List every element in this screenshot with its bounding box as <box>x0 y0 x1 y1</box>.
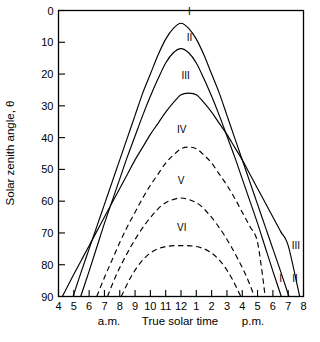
x-tick-label: 8 <box>117 300 123 312</box>
x-tick-label: 7 <box>285 300 291 312</box>
curve-label-III: III <box>181 70 189 81</box>
y-tick-label: 20 <box>41 68 53 80</box>
x-tick-label: 6 <box>86 300 92 312</box>
x-tick-label: 1 <box>193 300 199 312</box>
x-tick-label: 12 <box>175 300 187 312</box>
pm-label: p.m. <box>242 315 264 327</box>
y-tick-label: 40 <box>41 132 53 144</box>
x-tick-label: 11 <box>160 300 171 312</box>
x-tick-label: 4 <box>55 300 61 312</box>
curve-label-V: V <box>178 175 185 186</box>
y-tick-label: 60 <box>41 195 53 207</box>
x-tick-label: 2 <box>209 300 215 312</box>
x-tick-label: 8 <box>300 300 306 312</box>
y-tick-label: 70 <box>41 227 53 239</box>
curve-label-I: I <box>279 273 282 284</box>
y-axis-title: Solar zenith angle, θ <box>4 101 16 206</box>
y-tick-label: 80 <box>41 259 53 271</box>
am-label: a.m. <box>98 315 120 327</box>
curve-label-II: II <box>187 32 193 43</box>
x-tick-label: 9 <box>132 300 138 312</box>
x-tick-label: 10 <box>144 300 156 312</box>
x-tick-label: 7 <box>101 300 107 312</box>
x-tick-label: 6 <box>270 300 276 312</box>
curve-label-I: I <box>188 6 191 17</box>
solar-zenith-angle-chart: 45678910111212345678 0102030405060708090… <box>0 0 320 342</box>
y-tick-label: 10 <box>41 36 53 48</box>
curve-label-II: II <box>292 273 298 284</box>
curve-label-III: III <box>292 240 300 251</box>
y-tick-label: 50 <box>41 163 53 175</box>
y-tick-label: 0 <box>47 5 53 17</box>
x-tick-label: 3 <box>224 300 230 312</box>
curve-label-IV: IV <box>177 124 187 135</box>
y-tick-label: 30 <box>41 100 53 112</box>
x-axis-title: True solar time <box>142 315 218 327</box>
x-tick-label: 5 <box>255 300 261 312</box>
y-tick-label: 90 <box>41 291 53 303</box>
x-tick-label: 5 <box>71 300 77 312</box>
curve-label-VI: VI <box>177 222 186 233</box>
x-tick-label: 4 <box>239 300 245 312</box>
